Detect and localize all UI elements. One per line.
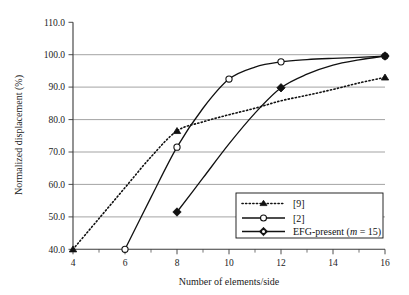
- x-tick-label: 4: [71, 258, 76, 268]
- chart-figure: 110.0 100.0 90.0 80.0 70.0 60.0 50.0 40.…: [0, 0, 409, 295]
- y-tick-label: 60.0: [48, 180, 65, 190]
- circle-marker: [226, 76, 232, 82]
- x-axis-tick-labels: 4 6 8 10 12 14 16: [71, 258, 390, 268]
- y-tick-label: 100.0: [44, 50, 66, 60]
- diamond-center-dot: [262, 230, 265, 233]
- x-tick-label: 8: [175, 258, 180, 268]
- series-3: [173, 52, 389, 216]
- y-tick-label: 50.0: [48, 212, 65, 222]
- triangle-marker: [173, 128, 180, 134]
- line-chart: 110.0 100.0 90.0 80.0 70.0 60.0 50.0 40.…: [0, 0, 409, 295]
- legend-label: [9]: [293, 198, 305, 209]
- x-tick-label: 16: [380, 258, 390, 268]
- circle-marker: [122, 246, 128, 252]
- y-axis-ticks: [69, 22, 74, 249]
- x-axis-title: Number of elements/side: [179, 276, 280, 287]
- y-axis-title: Normalized displacement (%): [13, 75, 25, 195]
- y-axis-tick-labels: 110.0 100.0 90.0 80.0 70.0 60.0 50.0 40.…: [44, 18, 66, 255]
- x-axis-ticks: [73, 249, 385, 254]
- x-tick-label: 14: [328, 258, 338, 268]
- y-tick-label: 40.0: [48, 245, 65, 255]
- legend: [9] [2] EFG-present (m = 15): [236, 193, 383, 238]
- y-tick-label: 90.0: [48, 82, 65, 92]
- y-tick-label: 110.0: [44, 18, 65, 28]
- circle-marker: [278, 59, 284, 65]
- series-line: [177, 56, 385, 212]
- legend-label: [2]: [293, 213, 305, 224]
- x-tick-label: 6: [123, 258, 128, 268]
- y-tick-label: 70.0: [48, 147, 65, 157]
- x-tick-label: 12: [276, 258, 286, 268]
- circle-marker: [174, 144, 180, 150]
- x-tick-label: 10: [224, 258, 234, 268]
- circle-icon: [261, 215, 267, 221]
- diamond-marker: [381, 52, 389, 60]
- y-tick-label: 80.0: [48, 115, 65, 125]
- triangle-marker: [381, 74, 388, 80]
- legend-label-efg: EFG-present (m = 15): [293, 226, 381, 238]
